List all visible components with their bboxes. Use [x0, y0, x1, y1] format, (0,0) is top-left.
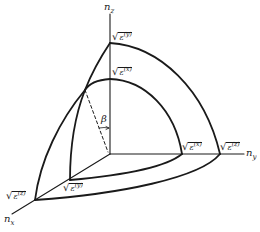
- angle-beta-label: β: [101, 114, 107, 124]
- axis-nx: [12, 154, 110, 214]
- axis-label-nx: nx: [4, 214, 14, 227]
- label-inner-z: √ε(x): [112, 66, 132, 77]
- outer-arc-yx: [35, 154, 220, 200]
- outer-arc-zy: [110, 43, 220, 154]
- label-inner-x: √ε(y): [63, 182, 83, 193]
- label-outer-x: √ε(z): [6, 190, 26, 201]
- label-inner-y: √ε(x): [182, 141, 202, 152]
- label-outer-y: √ε(z): [220, 141, 240, 152]
- axis-label-ny: ny: [246, 148, 256, 161]
- inner-arc-zy: [110, 79, 182, 154]
- inner-arc-yx: [70, 154, 182, 180]
- axis-label-nz: nz: [104, 2, 114, 15]
- inner-arc-from-crossing: [70, 90, 85, 180]
- outer-arc-zx: [85, 43, 110, 90]
- label-outer-z: √ε(y): [112, 31, 132, 42]
